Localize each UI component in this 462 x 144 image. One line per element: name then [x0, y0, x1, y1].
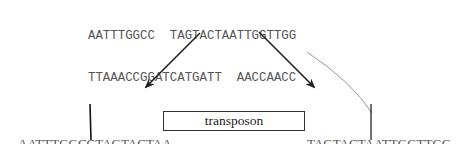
left-cut-mark [90, 104, 91, 140]
left-arrow-icon [146, 33, 200, 87]
right-arrow-icon [259, 32, 314, 87]
annotation-curve [307, 52, 372, 113]
diagram-lines [0, 0, 462, 144]
